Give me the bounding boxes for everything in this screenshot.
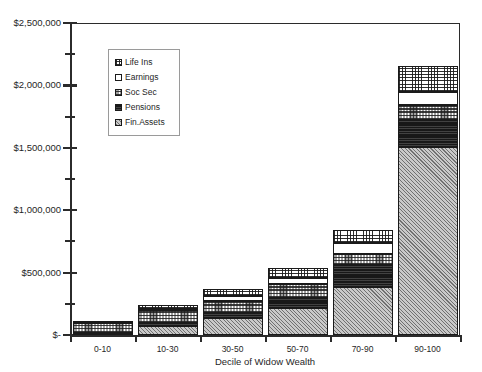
white-solid-pattern-icon — [115, 74, 122, 81]
chart-legend: Life InsEarningsSoc SecPensionsFin.Asset… — [108, 49, 180, 136]
bar-segment-earnings — [333, 243, 393, 254]
bar-30-50 — [203, 23, 263, 335]
bar-segment-earnings — [203, 296, 263, 302]
bar-segment-pensions — [203, 313, 263, 317]
bar-segment-fin-assets — [203, 318, 263, 335]
bar-segment-fin-assets — [138, 326, 198, 335]
legend-item-earnings: Earnings — [115, 70, 174, 85]
bar-70-90 — [333, 23, 393, 335]
legend-item-label: Earnings — [125, 73, 159, 82]
bar-segment-soc-sec — [398, 105, 458, 120]
legend-item-label: Pensions — [125, 103, 160, 112]
x-axis-tick-label: 50-70 — [268, 345, 328, 354]
bar-segment-pensions — [138, 323, 198, 325]
x-axis-tick — [395, 335, 397, 342]
coarse-dot-pattern-icon — [115, 89, 122, 96]
y-axis-tick-label: $1,500,000 — [0, 143, 61, 153]
x-axis-tick-label: 90-100 — [398, 345, 458, 354]
x-axis-tick — [135, 335, 137, 342]
bar-segment-life-ins — [203, 289, 263, 295]
bar-segment-life-ins — [138, 305, 198, 309]
bar-segment-pensions — [398, 120, 458, 147]
legend-item-pensions: Pensions — [115, 100, 174, 115]
bar-90-100 — [398, 23, 458, 335]
bar-segment-earnings — [268, 278, 328, 285]
y-axis-tick-label: $2,000,000 — [0, 80, 61, 90]
bar-segment-fin-assets — [398, 147, 458, 335]
bar-50-70 — [268, 23, 328, 335]
bar-segment-soc-sec — [203, 301, 263, 313]
stacked-bar-chart: $-$500,000$1,000,000$1,500,000$2,000,000… — [0, 0, 482, 372]
bar-segment-pensions — [333, 265, 393, 287]
bar-segment-soc-sec — [268, 284, 328, 297]
x-axis-tick — [200, 335, 202, 342]
x-axis-tick — [460, 335, 462, 342]
bar-segment-pensions — [268, 298, 328, 309]
x-axis-tick-label: 10-30 — [138, 345, 198, 354]
y-axis-tick-label: $500,000 — [0, 268, 61, 278]
bar-segment-life-ins — [73, 321, 133, 323]
y-axis-tick-label: $1,000,000 — [0, 205, 61, 215]
bar-segment-life-ins — [333, 230, 393, 242]
dark-solid-pattern-icon — [115, 104, 122, 111]
crosshatch-grid-pattern-icon — [115, 59, 122, 66]
bar-segment-life-ins — [398, 66, 458, 92]
x-axis-tick — [330, 335, 332, 342]
legend-item-label: Soc Sec — [125, 88, 157, 97]
x-axis-tick-label: 0-10 — [73, 345, 133, 354]
legend-item-fin-assets: Fin.Assets — [115, 115, 174, 130]
bar-segment-soc-sec — [333, 254, 393, 265]
x-axis-tick — [70, 335, 72, 342]
y-axis-tick-label: $2,500,000 — [0, 18, 61, 28]
x-axis-title: Decile of Widow Wealth — [70, 357, 460, 367]
legend-item-soc-sec: Soc Sec — [115, 85, 174, 100]
x-axis-tick — [265, 335, 267, 342]
bar-segment-earnings — [398, 92, 458, 105]
bar-segment-fin-assets — [268, 308, 328, 335]
diagonal-hatch-pattern-icon — [115, 119, 122, 126]
bar-segment-soc-sec — [138, 310, 198, 323]
legend-item-label: Fin.Assets — [125, 118, 165, 127]
bar-segment-earnings — [138, 309, 198, 311]
x-axis-tick-label: 30-50 — [203, 345, 263, 354]
legend-item-label: Life Ins — [125, 58, 152, 67]
y-axis-tick-label: $- — [0, 330, 61, 340]
x-axis-tick-label: 70-90 — [333, 345, 393, 354]
bar-segment-fin-assets — [333, 287, 393, 335]
bar-segment-life-ins — [268, 268, 328, 278]
bar-segment-soc-sec — [73, 323, 133, 334]
legend-item-life-ins: Life Ins — [115, 55, 174, 70]
